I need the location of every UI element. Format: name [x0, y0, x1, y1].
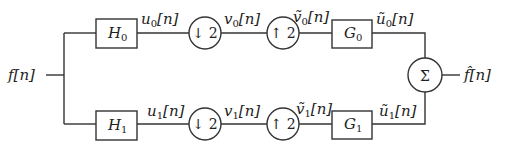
- u0-label: u0[n]: [141, 10, 179, 29]
- output-label: f̂[n]: [463, 66, 491, 84]
- filter-bank-diagram: f[n] H0 u0[n] ↓ 2 v0[n] ↑ 2 ṽ0[n] G0 ũ0[…: [0, 0, 506, 150]
- upsample-icon: ↑ 2: [270, 25, 295, 41]
- vt1-label: ṽ1[n]: [296, 100, 332, 119]
- ut1-label: ũ1[n]: [379, 102, 417, 121]
- vt0-label: ṽ0[n]: [293, 8, 329, 27]
- v0-label: v0[n]: [224, 10, 260, 29]
- branch-1: H1 u1[n] ↓ 2 v1[n] ↑ 2 ṽ1[n] G1 ũ1[n]: [64, 92, 425, 140]
- upsample-icon: ↑ 2: [270, 116, 295, 132]
- branch-0: H0 u0[n] ↓ 2 v0[n] ↑ 2 ṽ0[n] G0 ũ0[n]: [64, 8, 425, 58]
- ut0-label: ũ0[n]: [376, 10, 414, 29]
- v1-label: v1[n]: [224, 102, 260, 121]
- sigma-icon: Σ: [420, 68, 430, 84]
- downsample-icon: ↓ 2: [192, 116, 217, 132]
- downsample-icon: ↓ 2: [192, 25, 217, 41]
- wire: [372, 33, 425, 58]
- u1-label: u1[n]: [147, 102, 185, 121]
- input-label: f[n]: [7, 66, 35, 84]
